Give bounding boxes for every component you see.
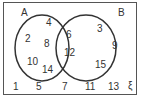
intersection-value: 6 (66, 30, 72, 40)
b-only-value: 9 (112, 41, 118, 51)
a-only-value: 4 (46, 18, 52, 28)
a-only-value: 2 (25, 34, 31, 44)
outside-value: 7 (62, 82, 68, 92)
a-only-value: 10 (27, 57, 38, 67)
outside-value: 11 (85, 82, 95, 92)
b-only-value: 15 (95, 60, 106, 70)
universal-set-symbol: ξ (128, 81, 132, 91)
a-only-value: 8 (44, 39, 50, 49)
b-only-value: 3 (97, 24, 103, 34)
a-only-value: 14 (42, 65, 53, 75)
outside-value: 1 (13, 82, 19, 92)
set-a-label: A (21, 8, 28, 18)
outside-value: 13 (108, 82, 119, 92)
intersection-value: 12 (64, 48, 75, 58)
outside-value: 5 (36, 82, 42, 92)
set-b-label: B (118, 8, 125, 18)
